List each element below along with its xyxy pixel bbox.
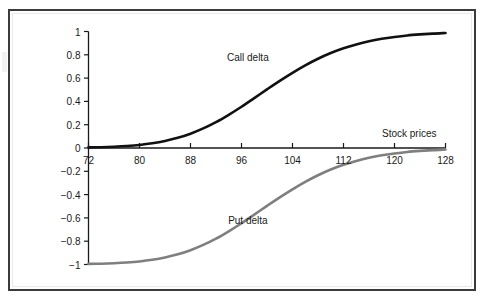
x-tick-label: 112 [336, 155, 352, 166]
y-tick-label: −0.8 [61, 236, 81, 247]
y-tick-label: −0.2 [61, 166, 81, 177]
x-tick-label: 104 [284, 155, 301, 166]
y-tick-label: −0.6 [61, 212, 81, 223]
y-tick-label: −0.4 [61, 189, 81, 200]
x-tick-label: 128 [437, 155, 454, 166]
x-tick-label: 88 [185, 155, 196, 166]
y-tick-label: −1 [69, 259, 80, 270]
y-tick-label: 0.4 [67, 96, 81, 107]
y-tick-label: 0.2 [67, 119, 81, 130]
series-line-2 [89, 150, 446, 264]
chart-canvas [0, 0, 484, 299]
x-tick-label: 96 [236, 155, 247, 166]
y-tick-label: 0 [75, 143, 81, 154]
x-tick-label: 120 [386, 155, 403, 166]
figure-root: Option deltas Stock prices 10.80.60.40.2… [0, 0, 484, 299]
x-axis-title: Stock prices [382, 128, 436, 139]
chart-plot-area: Option deltas Stock prices 10.80.60.40.2… [0, 0, 484, 299]
x-tick-label: 80 [134, 155, 145, 166]
series-annotation: Call delta [227, 52, 269, 63]
y-tick-label: 1 [75, 26, 81, 37]
y-tick-label: 0.8 [67, 49, 81, 60]
series-annotation: Put delta [228, 215, 267, 226]
y-tick-label: 0.6 [67, 73, 81, 84]
x-tick-label: 72 [83, 155, 94, 166]
